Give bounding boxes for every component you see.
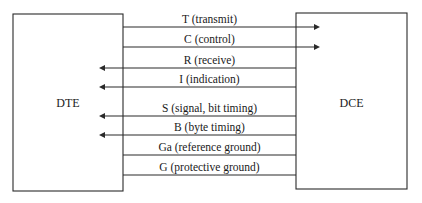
arrow-left-icon: [99, 132, 105, 138]
signal-label: S (signal, bit timing): [162, 102, 257, 115]
dte-label: DTE: [56, 96, 79, 110]
signal-c: C (control): [123, 33, 320, 50]
signal-label: I (indication): [179, 73, 240, 86]
signal-r: R (receive): [99, 54, 296, 71]
signal-label: C (control): [184, 33, 235, 46]
dte-dce-interface-diagram: DTE DCE T (transmit)C (control)R (receiv…: [0, 0, 422, 203]
arrow-left-icon: [99, 84, 105, 90]
dce-label: DCE: [340, 96, 364, 110]
signal-label: G (protective ground): [159, 161, 259, 174]
signal-g: G (protective ground): [123, 161, 296, 175]
signal-i: I (indication): [99, 73, 296, 90]
signal-label: Ga (reference ground): [158, 141, 260, 154]
signal-label: R (receive): [184, 54, 236, 67]
arrow-left-icon: [99, 65, 105, 71]
dce-box: DCE: [296, 13, 407, 189]
signal-label: T (transmit): [182, 13, 237, 26]
dte-box: DTE: [13, 14, 123, 191]
arrow-left-icon: [99, 113, 105, 119]
signal-label: B (byte timing): [174, 121, 245, 134]
arrow-right-icon: [314, 44, 320, 50]
signal-s: S (signal, bit timing): [99, 102, 296, 119]
signal-b: B (byte timing): [99, 121, 296, 138]
signal-t: T (transmit): [123, 13, 320, 30]
signal-lines: T (transmit)C (control)R (receive)I (ind…: [99, 13, 320, 175]
signal-ga: Ga (reference ground): [123, 141, 296, 155]
arrow-right-icon: [314, 24, 320, 30]
